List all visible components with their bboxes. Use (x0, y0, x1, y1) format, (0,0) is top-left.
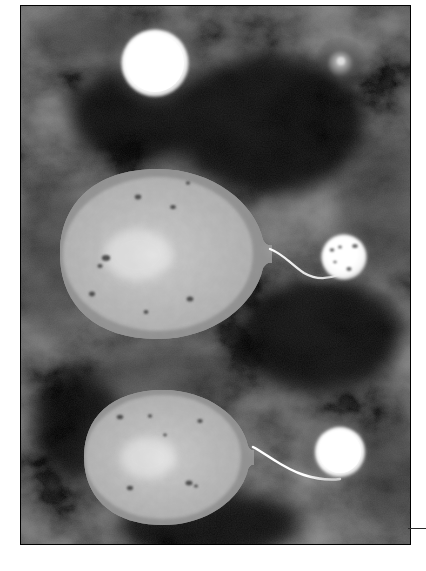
isolated-bright-star (103, 11, 207, 115)
giant-star-upper-core-glow (104, 229, 172, 281)
bottom-right-rule (408, 528, 426, 529)
companion-star-lower (299, 411, 381, 493)
figure-root: Two binary star systems rendered in gray… (0, 0, 426, 571)
companion-star-upper (308, 221, 380, 293)
astronomical-plate (20, 5, 411, 545)
plate-canvas (20, 5, 411, 545)
isolated-bright-star-core (126, 34, 184, 92)
isolated-dim-star (314, 36, 368, 90)
isolated-dim-star-core (337, 57, 345, 65)
companion-star-upper-disc (322, 235, 367, 280)
figure-alt-text: Two binary star systems rendered in gray… (0, 0, 1, 1)
companion-star-lower-core (319, 431, 361, 473)
giant-star-lower-core-glow (120, 437, 176, 479)
